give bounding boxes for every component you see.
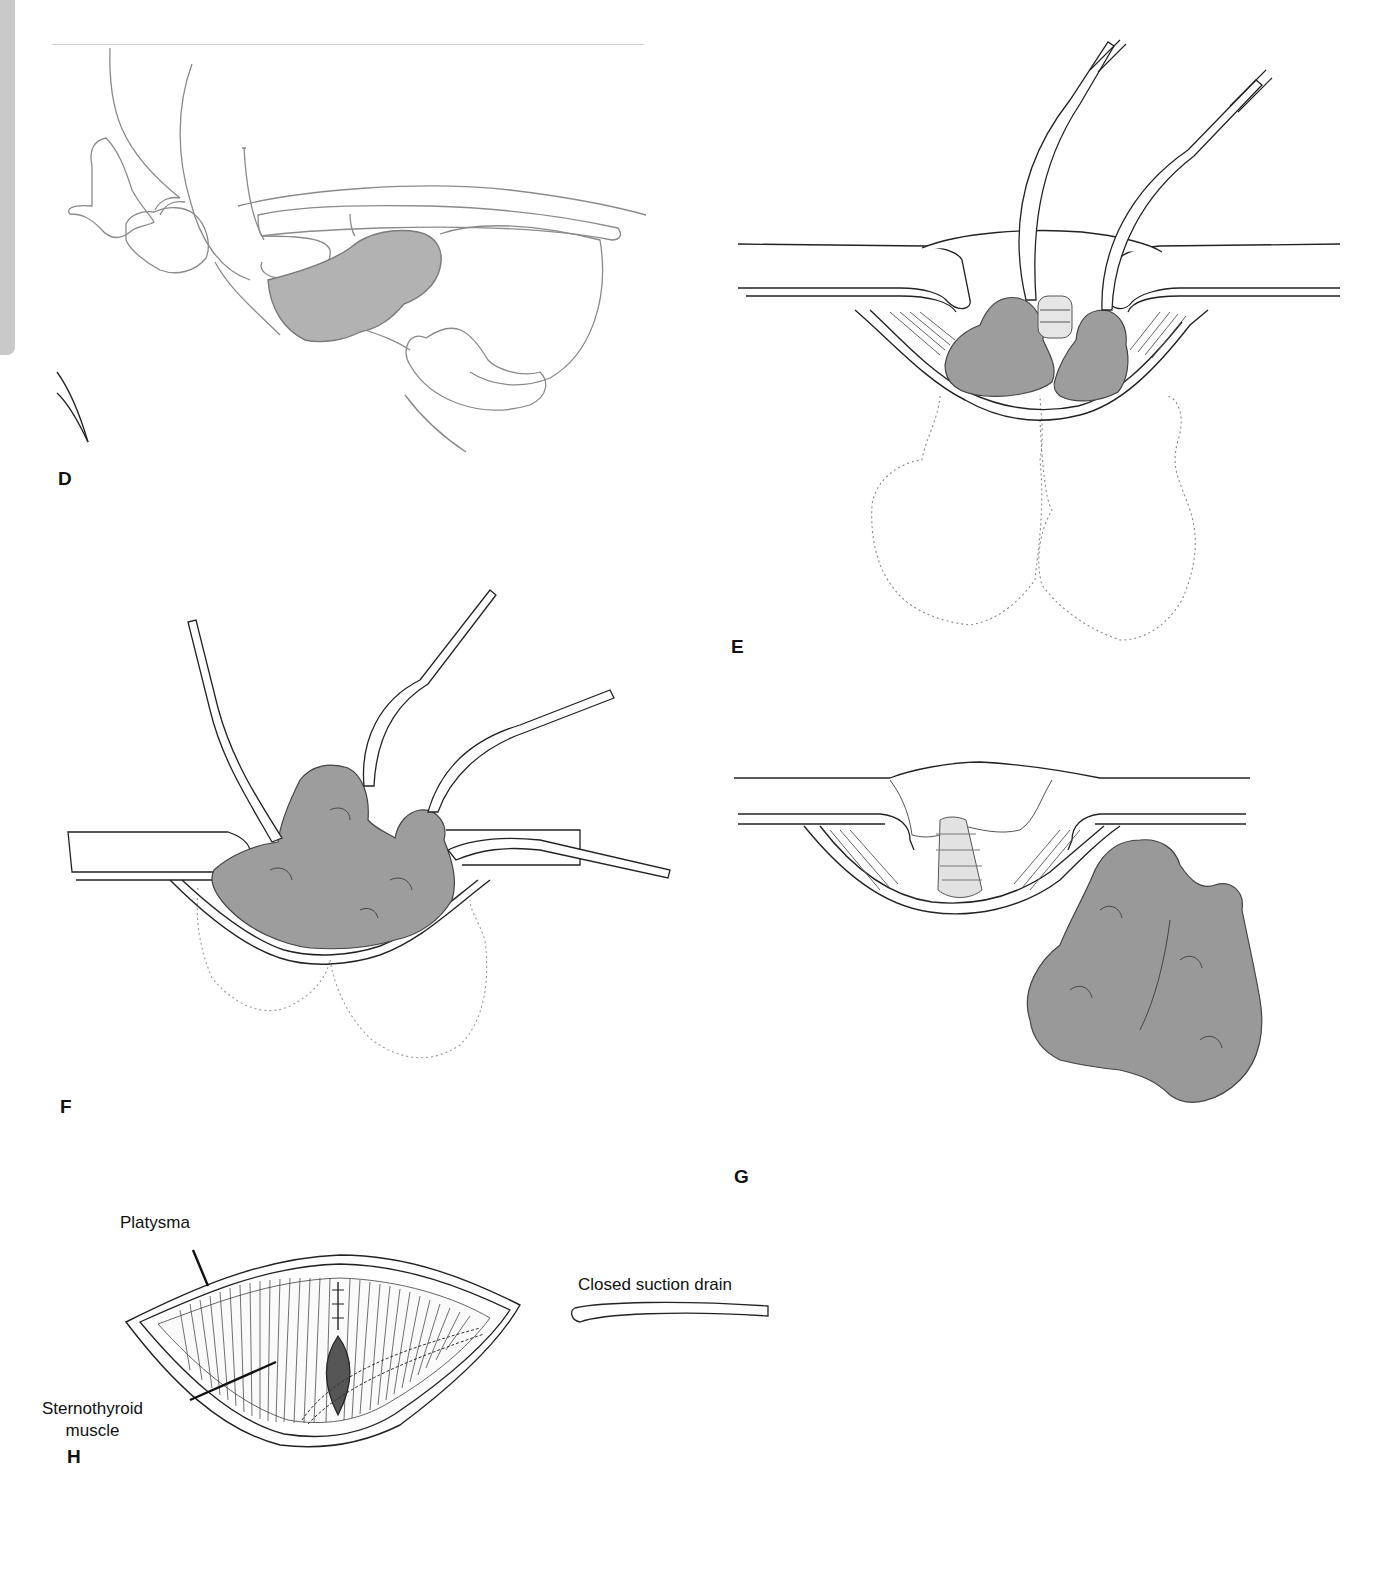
label-sternothyroid-line1: Sternothyroid xyxy=(20,1398,165,1420)
closed-suction-drain xyxy=(572,1302,768,1322)
thyroid-bed-and-specimen-illustration xyxy=(700,740,1392,1200)
panel-f: F xyxy=(0,580,700,1120)
panel-label-h: H xyxy=(67,1446,81,1468)
label-platysma: Platysma xyxy=(120,1212,190,1234)
wound-closure-illustration xyxy=(40,1200,800,1500)
thyroid-elevation-illustration xyxy=(0,580,700,1120)
resected-thyroid-specimen xyxy=(1027,840,1261,1102)
substernal-thyroid-mass xyxy=(268,231,441,342)
panel-label-e: E xyxy=(731,636,744,658)
label-sternothyroid-line2: muscle xyxy=(20,1420,165,1442)
neck-anatomy-illustration xyxy=(0,0,700,500)
panel-label-d: D xyxy=(58,468,72,490)
trachea xyxy=(936,817,982,898)
panel-e: E xyxy=(700,0,1392,680)
thyroid-delivery-illustration xyxy=(700,0,1392,680)
panel-label-g: G xyxy=(734,1166,749,1188)
label-closed-suction-drain: Closed suction drain xyxy=(578,1274,732,1296)
panel-h: Platysma Sternothyroid muscle Closed suc… xyxy=(40,1200,800,1500)
panel-label-f: F xyxy=(60,1096,72,1118)
panel-d: D xyxy=(0,0,700,500)
panel-g: G xyxy=(700,740,1392,1200)
